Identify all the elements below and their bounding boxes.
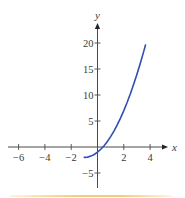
- y-tick-label: 5: [88, 116, 93, 127]
- y-axis-label: y: [94, 9, 100, 21]
- x-axis-arrow-icon: [162, 144, 168, 149]
- x-tick-label: −6: [13, 152, 24, 163]
- function-curve: [84, 45, 145, 157]
- function-graph: −6−4−224 −55101520 x y: [0, 0, 185, 198]
- y-tick-label: −5: [82, 168, 93, 179]
- x-tick-label: 4: [147, 152, 153, 163]
- x-axis-label: x: [171, 141, 177, 153]
- bottom-divider: [10, 195, 172, 197]
- x-tick-label: −2: [66, 152, 77, 163]
- y-tick-label: 10: [83, 90, 94, 101]
- x-tick-label: −4: [39, 152, 51, 163]
- y-tick-label: 15: [83, 64, 94, 75]
- y-tick-label: 20: [83, 38, 94, 49]
- y-axis-arrow-icon: [95, 23, 100, 29]
- x-tick-label: 2: [121, 152, 126, 163]
